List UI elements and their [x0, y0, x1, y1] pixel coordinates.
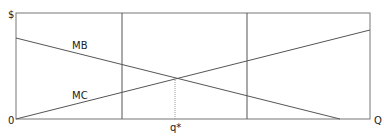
mc-curve	[16, 30, 370, 119]
origin-label: 0	[8, 115, 14, 126]
plot-frame	[16, 13, 370, 119]
x-axis-label: Q	[374, 115, 382, 126]
mb-label: MB	[72, 40, 88, 51]
equilibrium-label: q*	[170, 122, 181, 133]
mb-mc-diagram: $ 0 Q q* MB MC	[0, 0, 384, 137]
mc-label: MC	[72, 90, 88, 101]
y-axis-label: $	[8, 9, 14, 20]
